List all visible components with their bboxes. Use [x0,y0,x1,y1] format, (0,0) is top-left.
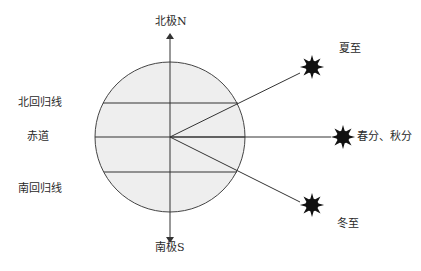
south-pole-label: 南极S [155,242,185,254]
north-pole-label: 北极N [155,16,187,28]
equator-label: 赤道 [27,131,49,143]
summer-solstice-sun-icon [300,55,324,79]
summer-solstice-label: 夏至 [339,43,361,55]
equinox-sun-icon [331,125,355,149]
tropic-of-cancer-label: 北回归线 [18,97,62,109]
winter-solstice-label: 冬至 [337,218,359,230]
equinox-label: 春分、秋分 [357,131,412,143]
winter-solstice-sun-icon [300,193,324,217]
tropic-of-capricorn-label: 南回归线 [18,183,62,195]
